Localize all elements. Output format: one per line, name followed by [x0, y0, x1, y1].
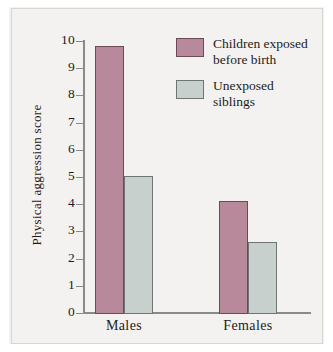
- legend-label-line: Children exposed: [213, 36, 308, 52]
- y-tick-mark: [76, 95, 84, 96]
- y-tick-label: 1: [15, 277, 75, 293]
- y-tick-label: 2: [15, 250, 75, 266]
- y-tick-mark: [76, 68, 84, 69]
- y-tick-mark: [76, 150, 84, 151]
- figure-background: 012345678910 Physical aggression score M…: [0, 0, 333, 352]
- x-axis-label-males: Males: [64, 318, 184, 334]
- plot-area: 012345678910 Physical aggression score M…: [0, 0, 333, 352]
- y-tick-label: 4: [15, 195, 75, 211]
- bar-males-series-0: [95, 46, 124, 314]
- legend-label-line: siblings: [213, 94, 274, 110]
- y-tick-label: 8: [15, 86, 75, 102]
- y-tick-label: 6: [15, 141, 75, 157]
- y-tick-mark: [76, 177, 84, 178]
- legend-label-0: Children exposedbefore birth: [213, 36, 308, 67]
- y-tick-mark: [76, 123, 84, 124]
- bar-females-series-0: [219, 201, 248, 314]
- legend-label-1: Unexposedsiblings: [213, 78, 274, 109]
- legend-label-line: before birth: [213, 52, 308, 68]
- y-tick-mark: [76, 313, 84, 314]
- y-tick-label: 10: [15, 32, 75, 48]
- legend-label-line: Unexposed: [213, 78, 274, 94]
- y-tick-label: 7: [15, 114, 75, 130]
- bar-males-series-1: [124, 176, 153, 314]
- y-tick-mark: [76, 259, 84, 260]
- y-tick-mark: [76, 231, 84, 232]
- legend-swatch-1: [176, 80, 204, 99]
- legend-item-1: Unexposedsiblings: [176, 78, 274, 109]
- legend-item-0: Children exposedbefore birth: [176, 36, 308, 67]
- y-tick-mark: [76, 204, 84, 205]
- y-tick-mark: [76, 286, 84, 287]
- y-axis-title: Physical aggression score: [29, 75, 45, 275]
- y-tick-mark: [76, 41, 84, 42]
- y-tick-label: 9: [15, 59, 75, 75]
- y-tick-label: 5: [15, 168, 75, 184]
- legend-swatch-0: [176, 38, 204, 57]
- y-tick-label: 3: [15, 222, 75, 238]
- x-axis-label-females: Females: [188, 318, 308, 334]
- bar-females-series-1: [248, 242, 277, 314]
